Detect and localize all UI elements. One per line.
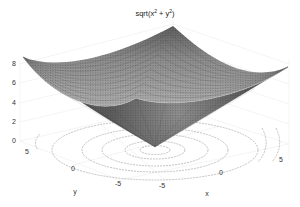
y-axis: 5 0 -5 y xyxy=(25,148,121,196)
x-tick-label: 0 xyxy=(219,169,223,176)
plot-title: sqrt(x2 + y2) xyxy=(135,8,175,18)
z-axis: 8 6 4 2 0 xyxy=(12,60,16,144)
z-tick-label: 2 xyxy=(12,118,16,125)
z-tick-label: 8 xyxy=(12,60,16,67)
z-tick-label: 6 xyxy=(12,79,16,86)
x-tick-label: -5 xyxy=(159,182,165,189)
y-tick-label: -5 xyxy=(115,180,121,187)
y-tick-label: 5 xyxy=(25,148,29,155)
z-tick-label: 0 xyxy=(12,137,16,144)
y-axis-label: y xyxy=(73,188,77,196)
x-axis-label: x xyxy=(205,190,209,197)
y-tick-label: 0 xyxy=(71,165,75,172)
x-axis: -5 0 5 x xyxy=(159,156,283,197)
z-tick-label: 4 xyxy=(12,99,16,106)
x-tick-label: 5 xyxy=(279,156,283,163)
surface-plot: sqrt(x2 + y2) 8 6 4 2 0 5 0 -5 y -5 0 5 … xyxy=(0,0,300,207)
surface-top xyxy=(23,26,288,106)
